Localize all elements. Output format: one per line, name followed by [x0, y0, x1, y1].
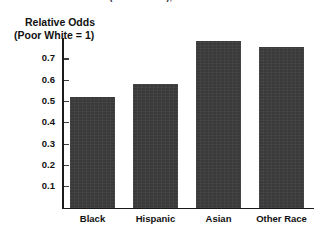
x-axis-category-label: Other Race: [239, 213, 325, 224]
bars-layer: [0, 0, 325, 233]
bar-chart: Income Effect (versus White), Income Poo…: [0, 0, 325, 233]
bar: [196, 41, 241, 207]
bar: [259, 47, 304, 208]
bar: [70, 97, 115, 208]
bar: [133, 84, 178, 208]
